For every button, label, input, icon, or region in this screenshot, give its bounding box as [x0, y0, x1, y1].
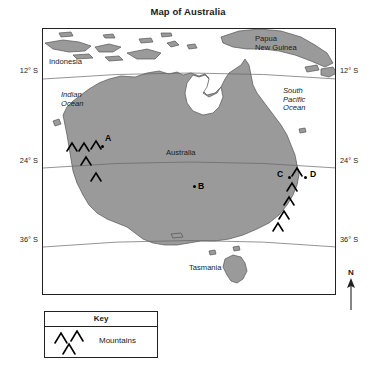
point-d-label: D	[310, 169, 316, 179]
islet-ne	[299, 128, 306, 133]
point-d-dot[interactable]	[304, 176, 307, 179]
islet-kangaroo	[171, 233, 183, 238]
map-canvas[interactable]: Indonesia Papua New Guinea Australia Tas…	[42, 28, 336, 295]
island-tas-small-2	[233, 246, 240, 251]
point-c-dot[interactable]	[288, 176, 291, 179]
compass-north-label: N	[340, 268, 362, 277]
map-vector-layer	[43, 29, 336, 295]
island-small-2	[187, 44, 197, 49]
point-b-label: B	[198, 181, 204, 191]
point-c-label: C	[277, 169, 283, 179]
point-a-label: A	[105, 133, 111, 143]
key-item-label-mountains: Mountains	[99, 336, 136, 345]
lat-label-right-36s: 36° S	[340, 235, 376, 244]
island-small-5	[161, 33, 172, 37]
island-tas-small-1	[209, 250, 216, 255]
lat-label-left-24s: 24° S	[2, 156, 38, 165]
island-small-4	[59, 32, 73, 37]
key-legend: Key Mountains	[44, 311, 158, 358]
lat-label-right-12s: 12° S	[340, 66, 376, 75]
key-title: Key	[45, 312, 157, 327]
key-body: Mountains	[45, 327, 157, 359]
island-flores	[73, 54, 93, 59]
island-small-3	[139, 38, 153, 43]
mountains-chevron-icon	[53, 330, 95, 356]
point-b-dot[interactable]	[193, 185, 196, 188]
point-a-dot[interactable]	[101, 145, 104, 148]
north-arrow-icon	[340, 277, 362, 311]
lat-label-right-24s: 24° S	[340, 156, 376, 165]
island-small-6	[103, 34, 115, 38]
page-title: Map of Australia	[0, 6, 376, 17]
lat-label-left-12s: 12° S	[2, 66, 38, 75]
lat-label-left-36s: 36° S	[2, 235, 38, 244]
compass: N	[340, 268, 362, 312]
